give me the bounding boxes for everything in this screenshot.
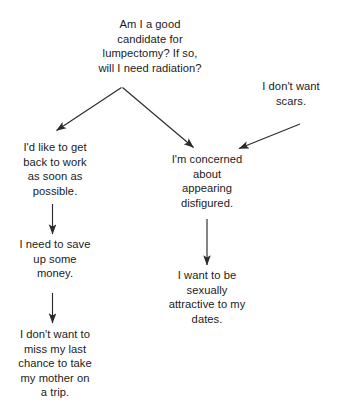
node-save-money: I need to save up some money.	[3, 237, 107, 281]
edge-root-to-work	[57, 88, 122, 131]
node-mother-trip: I don't want to miss my last chance to t…	[0, 327, 110, 400]
node-return-to-work: I'd like to get back to work as soon as …	[3, 140, 107, 198]
edge-root-to-disfigured	[123, 88, 194, 148]
node-sexually-attractive: I want to be sexually attractive to my d…	[148, 268, 266, 326]
node-no-scars: I don't want scars.	[245, 79, 337, 108]
node-appearing-disfigured: I'm concerned about appearing disfigured…	[155, 152, 259, 210]
edge-scars-to-disfigured	[239, 124, 300, 149]
decision-flow-diagram: Am I a good candidate for lumpectomy? If…	[0, 0, 337, 412]
node-root-question: Am I a good candidate for lumpectomy? If…	[47, 17, 253, 75]
